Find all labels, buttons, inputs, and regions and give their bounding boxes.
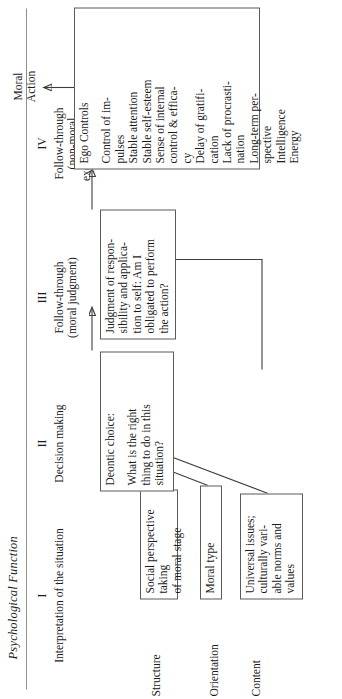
- box-ego-controls: Ego Controls Control of im- pulses Stabl…: [74, 7, 260, 169]
- figure-title: Psychological Function: [6, 536, 21, 659]
- box-deontic-text: What is the right thing to do in this si…: [126, 357, 166, 485]
- column-header-i: I Interpretation of the situation: [36, 509, 66, 681]
- column-caption-ii: Decision making: [53, 383, 67, 503]
- box-structure: Social perspective taking of moral stage: [140, 489, 178, 599]
- box-ego-items: Control of im- pulses Stable attention S…: [100, 13, 301, 163]
- box-deontic-header: Deontic choice:: [104, 357, 117, 485]
- column-number-i: I: [36, 509, 50, 681]
- column-header-iii: III Follow-through (moral judgment): [36, 233, 80, 361]
- column-number-ii: II: [36, 383, 50, 503]
- box-orientation-text: Moral type: [204, 491, 217, 593]
- box-ego-header: Ego Controls: [78, 13, 91, 163]
- box-orientation: Moral type: [200, 485, 222, 599]
- column-header-ii: II Decision making: [36, 383, 66, 503]
- row-label-content: Content: [250, 660, 262, 696]
- column-caption-i: Interpretation of the situation: [53, 509, 67, 681]
- box-judgment-responsibility: Judgment of respon- sibility and applica…: [100, 209, 176, 339]
- row-label-orientation: Orientation: [208, 644, 220, 696]
- box-judgment-text: Judgment of respon- sibility and applica…: [104, 215, 171, 333]
- column-caption-iii: Follow-through (moral judgment): [53, 233, 80, 361]
- box-content-text: Universal issues; culturally vari- able …: [244, 499, 298, 593]
- figure-stage: Psychological Function I Interpretation …: [0, 0, 342, 699]
- box-content: Universal issues; culturally vari- able …: [240, 493, 303, 599]
- column-number-iii: III: [36, 233, 50, 361]
- outcome-moral-action: Moral Action: [12, 53, 39, 119]
- box-structure-text: Social perspective taking of moral stage: [144, 495, 184, 593]
- row-label-structure: Structure: [150, 654, 162, 696]
- box-deontic-choice: Deontic choice: What is the right thing …: [100, 351, 174, 491]
